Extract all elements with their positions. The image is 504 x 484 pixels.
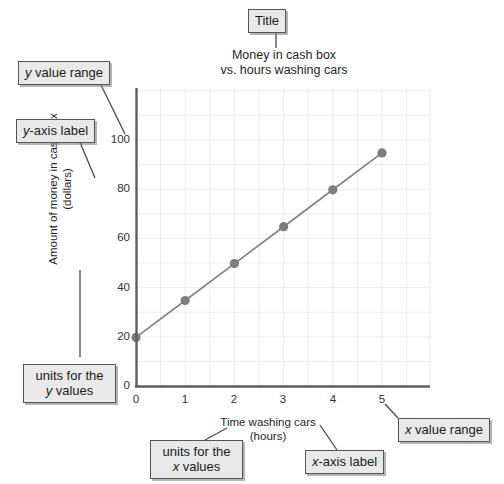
callout-x-axis-label-rest: -axis label [319,454,378,469]
y-axis-label: Amount of money in cash box (dollars) [46,79,74,299]
y-tick-label-60: 60 [104,231,130,243]
callout-title: Title [248,9,286,33]
y-tick-label-100: 100 [104,133,130,145]
chart-title-line-2: vs. hours washing cars [152,63,416,78]
x-tick-label-4: 4 [323,393,343,405]
callout-title-text: Title [255,13,279,28]
callout-x-axis-label: x-axis label [305,450,384,474]
y-tick-label-40: 40 [104,281,130,293]
plot-area-background [136,88,430,386]
data-point [279,222,288,231]
y-axis-units-text: (dollars) [60,79,74,299]
chart-worksheet-page: Money in cash box vs. hours washing cars… [0,0,504,484]
callout-units-y-values: units for the y values [23,364,116,403]
data-point [377,148,386,157]
x-axis-label-text: Time washing cars [173,415,363,429]
callout-units-x-line1: units for the [157,444,236,459]
callout-units-x-values: units for the x values [150,440,243,479]
data-point [230,259,239,268]
callout-units-y-rest: values [52,383,93,398]
data-point [181,296,190,305]
chart-title-line-1: Money in cash box [152,48,416,63]
x-axis-label: Time washing cars (hours) [173,415,363,443]
y-tick-label-80: 80 [104,182,130,194]
callout-y-axis-label-rest: -axis label [30,123,89,138]
callout-y-axis-label: y-axis label [16,119,95,143]
x-tick-label-3: 3 [273,393,293,405]
callout-units-x-line2: x values [157,459,236,474]
x-tick-label-1: 1 [175,393,195,405]
y-tick-label-20: 20 [104,330,130,342]
data-point [328,185,337,194]
callout-units-y-line1: units for the [30,368,109,383]
chart-title: Money in cash box vs. hours washing cars [152,48,416,78]
x-tick-label-2: 2 [224,393,244,405]
callout-x-value-range-rest: value range [412,422,484,437]
x-tick-label-0: 0 [126,393,146,405]
x-tick-label-5: 5 [372,393,392,405]
callout-y-value-range: y value range [18,61,110,85]
callout-units-y-line2: y values [30,383,109,398]
callout-x-value-range: x value range [398,418,490,442]
callout-y-value-range-rest: value range [32,65,104,80]
callout-units-x-rest: values [179,459,220,474]
